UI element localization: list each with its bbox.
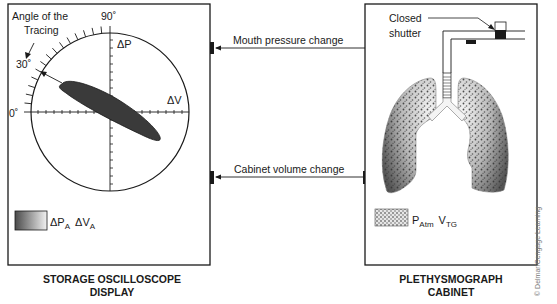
mouth-pressure-port <box>210 42 214 54</box>
cabinet-volume-label: Cabinet volume change <box>234 163 344 175</box>
legend-swatch-gradient <box>15 211 47 230</box>
mouth-pressure-arrowhead <box>215 46 221 51</box>
cabinet-volume-arrowhead <box>215 175 221 180</box>
shutter-housing <box>495 22 506 31</box>
legend-swatch-dotted <box>375 209 408 226</box>
oscilloscope-title-line1: STORAGE OSCILLOSCOPE <box>43 273 181 285</box>
cabinet-title-line2: CABINET <box>428 286 475 298</box>
angle-90-label: 90˚ <box>101 10 116 22</box>
plethysmograph-diagram: Angle of the Tracing 90˚ 30˚ 0˚ ΔP ΔV ΔP… <box>0 0 557 304</box>
oscilloscope-panel: Angle of the Tracing 90˚ 30˚ 0˚ ΔP ΔV ΔP… <box>8 4 210 298</box>
angle-30-label: 30˚ <box>16 58 31 70</box>
cabinet-title-line1: PLETHYSMOGRAPH <box>399 273 502 285</box>
angle-0-label: 0˚ <box>9 107 18 119</box>
shutter-label-line1: Closed <box>389 12 422 24</box>
plethysmograph-panel: Closed shutter PAtmVTG PLETHYSMOGRAPH CA… <box>365 4 537 298</box>
closed-shutter <box>495 30 506 39</box>
mouth-pressure-label: Mouth pressure change <box>233 34 343 46</box>
angle-label-line1: Angle of the <box>12 10 68 22</box>
copyright-credit: © Delmar/Cengage Learning <box>534 207 541 296</box>
shutter-label-line2: shutter <box>389 27 422 39</box>
cabinet-volume-port <box>210 171 214 184</box>
axis-v-label: ΔV <box>167 94 182 106</box>
oscilloscope-title-line2: DISPLAY <box>90 286 135 298</box>
pressure-transducer <box>466 40 476 44</box>
angle-label-line2: Tracing <box>24 24 59 36</box>
axis-p-label: ΔP <box>117 38 132 50</box>
